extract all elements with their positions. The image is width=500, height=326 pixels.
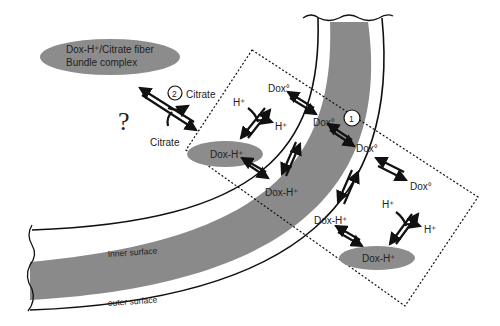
- complex-label-line1: Dox-H⁺/Citrate fiber: [66, 44, 154, 55]
- doxh-outer-bilayer-label: Dox-H⁺: [314, 215, 347, 226]
- outer-exchange-arrows: [336, 226, 362, 246]
- step2-number: 2: [172, 89, 177, 99]
- h-plus-label-3: H⁺: [382, 199, 394, 210]
- dox0-label-a: Dox°: [268, 83, 290, 94]
- dox0-label-c: Dox°: [356, 143, 378, 154]
- citrate-top-label: Citrate: [186, 89, 216, 100]
- doxh-ellipse-inner-label: Dox-H⁺: [210, 149, 243, 160]
- h-plus-label-1: H⁺: [233, 97, 245, 108]
- diagram-canvas: Dox-H⁺/Citrate fiber Bundle complex ? 2 …: [0, 0, 500, 326]
- complex-label-line2: Bundle complex: [66, 57, 137, 68]
- dox0-exchange-arrows-a: [288, 92, 316, 114]
- dox0-exchange-arrows-d: [376, 158, 406, 180]
- protonation-arrows-outer: [390, 212, 420, 244]
- h-plus-label-4: H⁺: [424, 224, 436, 235]
- citrate-bottom-label: Citrate: [150, 137, 180, 148]
- step1-number: 1: [349, 114, 354, 124]
- liposome-membrane-diagram: Dox-H⁺/Citrate fiber Bundle complex ? 2 …: [0, 0, 500, 326]
- doxh-ellipse-outer-label: Dox-H⁺: [362, 253, 395, 264]
- doxh-inner-bilayer-label: Dox-H⁺: [265, 187, 298, 198]
- protonation-arrows-inner: [241, 108, 272, 138]
- outer-surface-label: outer surface: [107, 295, 157, 308]
- membrane-cut-top: [303, 15, 393, 21]
- h-plus-label-2: H⁺: [275, 121, 287, 132]
- question-mark: ?: [118, 107, 130, 136]
- dox0-label-d: Dox°: [410, 181, 432, 192]
